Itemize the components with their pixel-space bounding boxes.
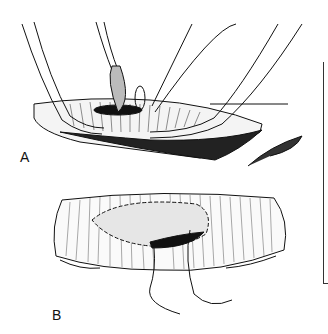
- panel-label-a: A: [20, 150, 29, 164]
- illustration-panel-a: [0, 0, 328, 170]
- scale-bracket: [323, 62, 324, 284]
- illustration-panel-b: [0, 170, 328, 334]
- scale-bracket-tick: [323, 283, 328, 284]
- panel-label-b: B: [52, 308, 61, 322]
